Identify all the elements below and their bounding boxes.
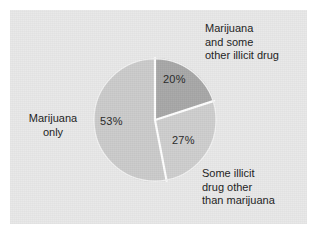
slice-label-line: Marijuana: [205, 22, 279, 36]
slice-label-line: than marijuana: [202, 194, 275, 208]
slice-value-other-illicit-not-marijuana: 27%: [172, 134, 195, 146]
pie-chart-figure: 53% 20% 27% Marijuana only Marijuana and…: [0, 0, 315, 234]
slice-label-line: other illicit drug: [205, 49, 279, 63]
slice-label-line: only: [14, 126, 92, 140]
slice-label-line: drug other: [202, 181, 275, 195]
slice-label-line: Marijuana: [14, 112, 92, 126]
slice-label-marijuana-and-other-illicit: Marijuana and some other illicit drug: [205, 22, 279, 63]
slice-value-marijuana-only: 53%: [100, 115, 123, 127]
slice-label-line: and some: [205, 36, 279, 50]
slice-label-line: Some illicit: [202, 167, 275, 181]
slice-value-marijuana-and-other-illicit: 20%: [163, 73, 186, 85]
slice-label-other-illicit-not-marijuana: Some illicit drug other than marijuana: [202, 167, 275, 208]
slice-label-marijuana-only: Marijuana only: [14, 112, 92, 139]
